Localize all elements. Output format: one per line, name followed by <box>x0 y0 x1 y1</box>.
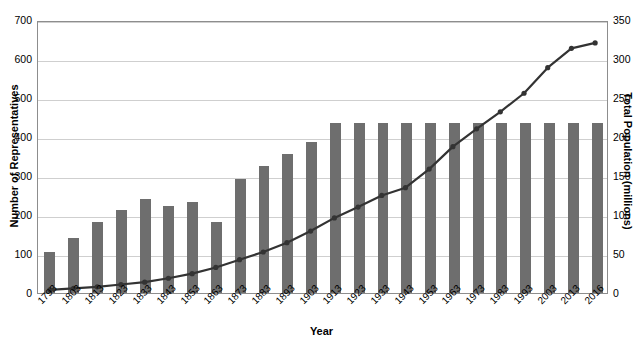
line-marker <box>379 193 384 198</box>
line-marker <box>569 46 574 51</box>
y-axis-tick-label-right: 50 <box>613 249 643 260</box>
line-marker <box>284 240 289 245</box>
chart-container: Number of Representatives Total Populati… <box>0 0 643 347</box>
line-marker <box>308 228 313 233</box>
y-axis-label-left: Number of Representatives <box>8 56 20 256</box>
line-marker <box>427 167 432 172</box>
y-axis-tick-label-right: 200 <box>613 132 643 143</box>
line-marker <box>190 271 195 276</box>
line-marker <box>237 257 242 262</box>
y-axis-tick-label-left: 600 <box>0 54 32 65</box>
y-axis-tick-label-left: 500 <box>0 93 32 104</box>
y-axis-tick-label-right: 100 <box>613 210 643 221</box>
y-axis-tick-label-right: 250 <box>613 93 643 104</box>
plot-area <box>37 21 608 294</box>
y-axis-tick-label-left: 200 <box>0 210 32 221</box>
y-axis-tick-label-left: 700 <box>0 15 32 26</box>
line-marker <box>332 215 337 220</box>
line-marker <box>521 91 526 96</box>
line-marker <box>213 265 218 270</box>
x-axis-label: Year <box>0 325 643 337</box>
y-axis-label-right: Total Population (millions) <box>622 61 634 261</box>
y-axis-tick-label-left: 100 <box>0 249 32 260</box>
y-axis-tick-label-left: 400 <box>0 132 32 143</box>
line-series <box>38 22 607 293</box>
line-marker <box>593 40 598 45</box>
population-line <box>50 43 595 290</box>
population-line-markers <box>47 40 597 292</box>
y-axis-tick-label-right: 300 <box>613 54 643 65</box>
line-marker <box>498 109 503 114</box>
line-marker <box>474 126 479 131</box>
y-axis-tick-label-left: 300 <box>0 171 32 182</box>
line-marker <box>355 204 360 209</box>
y-axis-tick-label-right: 350 <box>613 15 643 26</box>
y-axis-tick-label-left: 0 <box>0 288 32 299</box>
y-axis-tick-label-right: 0 <box>613 288 643 299</box>
line-marker <box>403 185 408 190</box>
line-marker <box>166 276 171 281</box>
line-marker <box>450 144 455 149</box>
line-marker <box>261 249 266 254</box>
y-axis-tick-label-right: 150 <box>613 171 643 182</box>
line-marker <box>545 65 550 70</box>
